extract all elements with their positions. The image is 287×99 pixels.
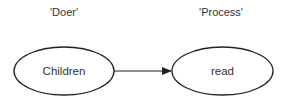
- node-children: Children: [14, 47, 114, 95]
- node-read: read: [172, 47, 273, 95]
- node-children-label: Children: [43, 65, 86, 77]
- role-label-process: 'Process': [199, 6, 243, 18]
- node-read-label: read: [211, 65, 234, 77]
- role-label-doer: 'Doer': [50, 6, 78, 18]
- diagram-canvas: 'Doer' 'Process' Children read: [0, 0, 287, 99]
